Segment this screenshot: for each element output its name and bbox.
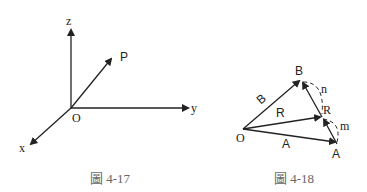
vector-r-label: R — [276, 106, 285, 120]
a-end-label: A — [332, 147, 340, 161]
caption-4-17: 圖 4-17 — [90, 171, 131, 186]
caption-4-18: 圖 4-18 — [274, 171, 314, 186]
vector-a-label: A — [282, 137, 290, 151]
n-label: n — [321, 82, 327, 96]
segment-r-to-b — [303, 83, 322, 117]
x-label: x — [19, 141, 25, 155]
figure-4-17: z y x O P 圖 4-17 — [19, 14, 197, 186]
origin-label: O — [236, 131, 245, 145]
y-label: y — [191, 101, 197, 115]
arc-n — [303, 82, 322, 114]
origin-label: O — [72, 111, 81, 125]
r-end-label: R — [323, 103, 331, 117]
m-label: m — [340, 119, 350, 133]
diagram-canvas: z y x O P 圖 4-17 O B A R B R A n m 圖 4-1… — [0, 0, 367, 192]
b-end-label: B — [295, 64, 303, 78]
vector-p — [71, 59, 111, 108]
vector-b-label: B — [254, 91, 269, 107]
figure-4-18: O B A R B R A n m 圖 4-18 — [236, 64, 350, 186]
z-label: z — [66, 14, 71, 28]
point-p-label: P — [120, 50, 128, 64]
x-axis — [31, 108, 71, 144]
